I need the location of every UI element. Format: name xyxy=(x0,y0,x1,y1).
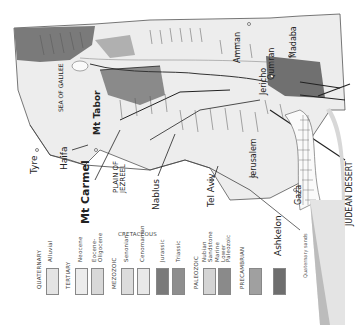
legend-label-quaternary-sands: Quaternary sands xyxy=(303,233,308,278)
place-label-jerusalem: Jerusalem xyxy=(250,138,258,178)
place-label-madaba: Madaba xyxy=(290,26,298,58)
place-label-sea-of-galilee: SEA OF GALILEE xyxy=(58,64,64,112)
place-label-nablus: Nablus xyxy=(152,179,161,210)
place-label-plain-of-jezreel: PLAIN OF JEZREEL xyxy=(113,143,127,193)
legend-item-label: Senonian xyxy=(124,235,130,262)
legend-group-paleozoic: PALEOZOIC xyxy=(194,256,200,289)
legend-item-label: Cenomanian xyxy=(140,225,146,262)
legend-swatch-nubian-sandstone xyxy=(203,268,216,295)
legend-item-label: Nubian Sandstone xyxy=(202,236,213,262)
place-label-tel-aviv: Tel Aviv xyxy=(207,173,216,207)
legend-group-precambrian: PRECAMBRIAN xyxy=(240,247,246,289)
legend-item-label: Triassic xyxy=(176,240,182,262)
legend-swatch-eocene-oligocene xyxy=(91,268,104,295)
legend-swatch-jurassic xyxy=(156,268,169,295)
place-label-gaza: Gaza xyxy=(295,185,303,205)
place-label-haifa: Haifa xyxy=(60,147,69,170)
legend-group-tertiary: TERTIARY xyxy=(66,262,72,289)
place-label-amman: Amman xyxy=(234,32,242,63)
place-label-mt-carmel: Mt Carmel xyxy=(80,160,91,224)
legend-swatch-cenomanian xyxy=(137,268,150,295)
legend-swatch-marine-lower-paleozoic xyxy=(218,268,231,295)
legend-item-label: Neocene xyxy=(78,236,84,262)
legend-item-label: Marine Lower Paleozoic xyxy=(215,228,232,262)
legend-swatch-precambrian-1 xyxy=(249,268,262,295)
legend-item-label: Jurassic xyxy=(160,239,166,262)
legend-item-label: Alluvial xyxy=(48,240,54,262)
place-label-judean-desert: JUDEAN DESERT xyxy=(346,161,354,226)
place-label-tyre: Tyre xyxy=(30,156,39,174)
legend-swatch-neocene xyxy=(75,268,88,295)
legend-group-quaternary: QUATERNARY xyxy=(37,250,43,289)
legend-swatch-senonian xyxy=(121,268,134,295)
legend-swatch-alluvial xyxy=(46,268,59,295)
legend-group-mezozoic: MEZOZOIC xyxy=(112,258,118,289)
place-label-mt-tabor: Mt Tabor xyxy=(93,90,102,135)
place-label-ashkelon: Ashkelon xyxy=(274,215,283,256)
legend-swatch-triassic xyxy=(172,268,185,295)
place-label-qumran: Qumran xyxy=(268,48,276,80)
legend-swatch-precambrian-2 xyxy=(273,268,286,295)
legend-item-label: Eocene-Oligocene xyxy=(92,232,103,262)
